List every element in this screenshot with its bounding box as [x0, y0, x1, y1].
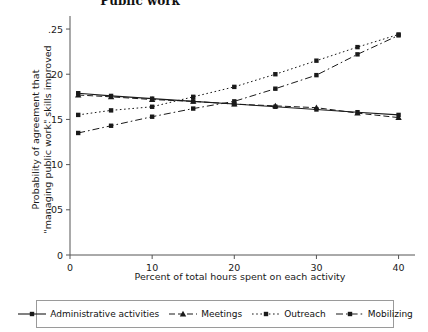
legend-swatch-icon: [168, 309, 198, 319]
legend-label: Mobilizing: [368, 309, 413, 319]
x-tick-label: 0: [67, 262, 73, 273]
y-tick-label: .10: [48, 159, 63, 170]
data-point: [76, 113, 80, 117]
series-line: [78, 93, 398, 115]
x-tick-label: 30: [310, 262, 322, 273]
series-meetings: [75, 92, 402, 120]
series-line: [78, 34, 398, 114]
series-administrative-activities: [76, 91, 401, 117]
x-tick-label: 10: [146, 262, 158, 273]
data-point: [232, 99, 236, 103]
data-point: [191, 95, 195, 99]
legend-marker: [264, 312, 268, 316]
y-tick-label: 0: [57, 250, 63, 261]
data-point: [150, 105, 154, 109]
legend-marker: [347, 312, 351, 316]
legend-swatch-icon: [251, 309, 281, 319]
legend-swatch-icon: [335, 309, 365, 319]
chart-plot-area: 0.05.10.15.20.25010203040: [0, 0, 428, 332]
y-tick-label: .15: [48, 114, 63, 125]
data-point: [75, 92, 81, 98]
legend-marker: [30, 312, 34, 316]
legend-label: Outreach: [284, 309, 326, 319]
data-point: [314, 73, 318, 77]
data-point: [272, 103, 278, 109]
legend-swatch-icon: [17, 309, 47, 319]
legend-label: Administrative activities: [50, 309, 159, 319]
data-point: [76, 131, 80, 135]
y-tick-label: .05: [48, 204, 63, 215]
data-point: [396, 33, 400, 37]
x-tick-label: 40: [393, 262, 405, 273]
data-point: [355, 45, 359, 49]
data-point: [150, 115, 154, 119]
series-line: [78, 35, 398, 133]
data-point: [314, 58, 318, 62]
y-tick-label: .25: [48, 24, 63, 35]
series-line: [78, 95, 398, 118]
data-point: [191, 106, 195, 110]
legend-label: Meetings: [201, 309, 242, 319]
chart-legend: Administrative activitiesMeetingsOutreac…: [36, 300, 394, 328]
data-point: [232, 85, 236, 89]
legend-item-mobilizing[interactable]: Mobilizing: [335, 309, 413, 319]
legend-item-outreach[interactable]: Outreach: [251, 309, 326, 319]
legend-item-administrative-activities[interactable]: Administrative activities: [17, 309, 159, 319]
chart-root: Public work Probability of agreement tha…: [0, 0, 428, 332]
data-point: [355, 52, 359, 56]
legend-item-meetings[interactable]: Meetings: [168, 309, 242, 319]
data-point: [109, 124, 113, 128]
data-point: [273, 72, 277, 76]
x-tick-label: 20: [228, 262, 240, 273]
y-tick-label: .20: [48, 69, 63, 80]
data-point: [109, 108, 113, 112]
data-point: [273, 86, 277, 90]
